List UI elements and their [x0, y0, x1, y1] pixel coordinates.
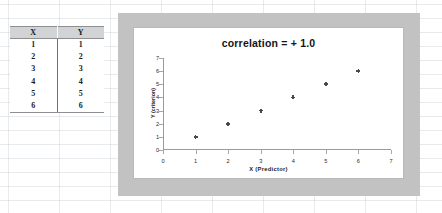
table-cell-y[interactable]: 4	[57, 76, 104, 88]
x-axis-tick-label: 1	[194, 158, 197, 164]
x-axis-tick	[326, 150, 327, 154]
x-axis-tick-label: 6	[357, 158, 360, 164]
table-cell-x[interactable]: 1	[10, 39, 57, 52]
x-axis-tick-label: 3	[259, 158, 262, 164]
data-point[interactable]	[259, 109, 263, 113]
x-axis-title: X (Predictor)	[134, 166, 403, 172]
table-cell-y[interactable]: 5	[57, 88, 104, 100]
y-axis-tick	[159, 150, 163, 151]
x-axis-tick-label: 0	[161, 158, 164, 164]
table-cell-y[interactable]: 2	[57, 51, 104, 63]
y-axis-tick-label: 0	[151, 147, 159, 153]
y-axis-tick-label: 6	[151, 68, 159, 74]
table-row[interactable]: 33	[10, 63, 104, 75]
y-axis-tick-label: 1	[151, 134, 159, 140]
x-axis-tick-label: 2	[227, 158, 230, 164]
y-axis-tick	[159, 124, 163, 125]
x-axis-tick	[163, 150, 164, 154]
x-axis-tick	[358, 150, 359, 154]
data-table[interactable]: X Y 112233445566	[10, 26, 104, 113]
table-row[interactable]: 44	[10, 76, 104, 88]
chart-plot-area[interactable]: correlation = + 1.0 Y (criterion) X (Pre…	[133, 27, 404, 179]
y-axis-tick	[159, 58, 163, 59]
data-point[interactable]	[356, 69, 360, 73]
table-row[interactable]: 55	[10, 88, 104, 100]
y-axis-tick-label: 2	[151, 121, 159, 127]
y-axis-tick	[159, 71, 163, 72]
column-header-x[interactable]: X	[10, 27, 57, 39]
y-axis-tick-label: 4	[151, 94, 159, 100]
table-cell-y[interactable]: 1	[57, 39, 104, 52]
x-axis-tick	[293, 150, 294, 154]
table-row[interactable]: 11	[10, 39, 104, 52]
table-cell-y[interactable]: 6	[57, 100, 104, 113]
x-axis-tick	[228, 150, 229, 154]
x-axis-tick	[391, 150, 392, 154]
y-axis-tick	[159, 97, 163, 98]
table-cell-x[interactable]: 3	[10, 63, 57, 75]
data-point[interactable]	[324, 82, 328, 86]
x-axis-line	[163, 149, 391, 150]
table-cell-x[interactable]: 2	[10, 51, 57, 63]
y-axis-tick	[159, 111, 163, 112]
data-point[interactable]	[194, 135, 198, 139]
chart-grid-region: 0123456701234567	[163, 58, 391, 150]
data-point[interactable]	[291, 95, 295, 99]
y-axis-line	[163, 58, 164, 150]
x-axis-tick-label: 7	[389, 158, 392, 164]
table-row[interactable]: 22	[10, 51, 104, 63]
table-cell-y[interactable]: 3	[57, 63, 104, 75]
chart-title: correlation = + 1.0	[134, 37, 403, 49]
y-axis-tick	[159, 137, 163, 138]
table-cell-x[interactable]: 6	[10, 100, 57, 113]
x-axis-tick	[261, 150, 262, 154]
column-header-y[interactable]: Y	[57, 27, 104, 39]
table-cell-x[interactable]: 5	[10, 88, 57, 100]
table-row[interactable]: 66	[10, 100, 104, 113]
y-axis-tick-label: 5	[151, 81, 159, 87]
x-axis-tick-label: 4	[292, 158, 295, 164]
table-cell-x[interactable]: 4	[10, 76, 57, 88]
x-axis-tick	[196, 150, 197, 154]
y-axis-tick-label: 3	[151, 108, 159, 114]
y-axis-tick	[159, 84, 163, 85]
y-axis-tick-label: 7	[151, 55, 159, 61]
chart-object-frame[interactable]: correlation = + 1.0 Y (criterion) X (Pre…	[118, 13, 420, 196]
table-header-row: X Y	[10, 27, 104, 39]
data-point[interactable]	[226, 122, 230, 126]
x-axis-tick-label: 5	[324, 158, 327, 164]
